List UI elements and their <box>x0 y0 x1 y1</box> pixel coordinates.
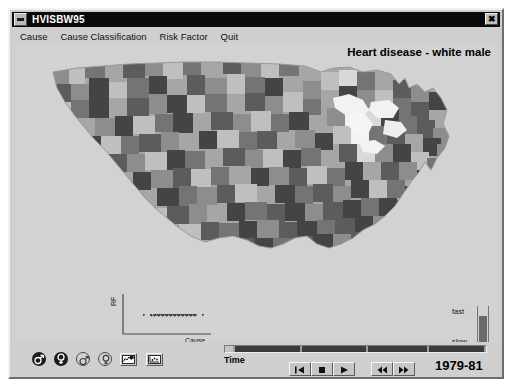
speed-slow-label: slow <box>452 337 467 342</box>
menu-cause-classification[interactable]: Cause Classification <box>60 31 146 42</box>
menubar: Cause Cause Classification Risk Factor Q… <box>12 28 500 44</box>
menu-risk-factor[interactable]: Risk Factor <box>160 31 208 42</box>
female-outline-icon[interactable] <box>98 352 112 366</box>
map-heading: Heart disease - white male <box>347 46 491 58</box>
time-segment-3[interactable] <box>368 346 427 352</box>
window-menu-icon[interactable] <box>14 13 27 26</box>
step-forward-button[interactable] <box>393 362 415 376</box>
close-icon[interactable]: ✖ <box>485 13 498 25</box>
time-slider-area: Time <box>224 345 487 353</box>
time-segment-0[interactable] <box>225 346 233 352</box>
choropleth-map[interactable] <box>33 58 481 278</box>
time-segment-1[interactable] <box>235 346 300 352</box>
time-segment-2[interactable] <box>302 346 367 352</box>
female-filled-icon[interactable] <box>54 352 68 366</box>
window-title: HVISBW95 <box>32 14 85 25</box>
time-label: Time <box>224 355 245 365</box>
time-slider[interactable] <box>224 345 487 353</box>
male-filled-icon[interactable] <box>32 352 46 366</box>
speed-thermometer[interactable] <box>477 306 489 342</box>
stop-button[interactable] <box>311 362 333 376</box>
menu-cause[interactable]: Cause <box>20 31 47 42</box>
menu-quit[interactable]: Quit <box>221 31 238 42</box>
thermometer-fill <box>479 316 487 342</box>
application-window: HVISBW95 ✖ Cause Cause Classification Ri… <box>8 8 504 379</box>
scatter-xlabel: Cause <box>185 337 205 342</box>
scatter-points <box>143 314 204 316</box>
play-button[interactable] <box>333 362 355 376</box>
rewind-to-start-button[interactable] <box>289 362 311 376</box>
step-back-button[interactable] <box>371 362 393 376</box>
rf-cause-scatterplot[interactable]: RF Cause <box>107 292 215 342</box>
time-period-readout: 1979-81 <box>435 358 483 373</box>
screenshot-root: HVISBW95 ✖ Cause Cause Classification Ri… <box>0 0 512 391</box>
titlebar: HVISBW95 ✖ <box>12 12 500 27</box>
transport-controls-secondary <box>371 362 415 376</box>
gender-and-view-toggle-group <box>32 352 172 366</box>
male-outline-icon[interactable] <box>76 352 90 366</box>
transport-controls-primary <box>289 362 355 376</box>
speed-fast-label: fast <box>452 307 464 316</box>
scatter-ylabel: RF <box>110 297 117 306</box>
bottom-toolbar: Time <box>15 344 497 377</box>
scatter-view-icon[interactable] <box>146 353 163 366</box>
time-segment-4[interactable] <box>429 346 484 352</box>
animation-speed-legend: fast slow – + <box>452 306 497 342</box>
map-view-icon[interactable] <box>120 353 137 366</box>
visualization-canvas: Heart disease - white male <box>15 44 497 342</box>
